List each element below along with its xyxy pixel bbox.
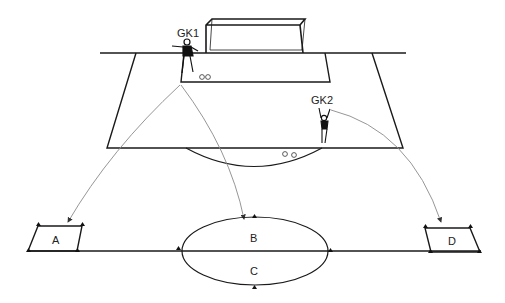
zone-c-label: C bbox=[250, 265, 258, 277]
arrow-gk1-to-b bbox=[181, 85, 244, 219]
gk2-label: GK2 bbox=[311, 94, 333, 106]
gk1-label: GK1 bbox=[177, 27, 199, 39]
arrow-gk1-to-a bbox=[68, 85, 180, 222]
penalty-box bbox=[107, 53, 403, 148]
balls-gk1 bbox=[200, 75, 211, 80]
zone-b-label: B bbox=[250, 232, 257, 244]
zone-d-label: D bbox=[448, 235, 456, 247]
goal bbox=[206, 19, 305, 53]
balls-arc bbox=[283, 152, 297, 158]
goalkeeper-1-figure bbox=[172, 39, 198, 73]
arrow-gk2-to-d bbox=[331, 110, 441, 222]
goalkeeper-2-figure bbox=[319, 108, 330, 143]
pass-arrows bbox=[68, 85, 441, 222]
six-yard-box bbox=[181, 53, 330, 82]
zone-a-label: A bbox=[52, 234, 60, 246]
penalty-arc bbox=[186, 148, 322, 167]
drill-diagram: GK1 GK2 A B C D bbox=[0, 0, 505, 303]
